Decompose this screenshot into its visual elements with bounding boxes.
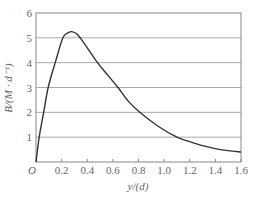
x-tick-label: 1.2 — [183, 164, 197, 176]
x-tick-label: 0.8 — [132, 164, 146, 176]
x-tick-label: 0.6 — [106, 164, 120, 176]
x-tick-label: 1.6 — [234, 164, 248, 176]
x-tick-label: 0.4 — [80, 164, 94, 176]
y-axis-label: B/(M · d⁻¹) — [2, 63, 15, 113]
y-tick-label: 4 — [27, 57, 33, 69]
x-axis-label: y/(d) — [127, 180, 149, 193]
y-tick-label: 3 — [27, 82, 33, 94]
x-tick-label: 0.2 — [55, 164, 69, 176]
y-tick-label: 6 — [27, 7, 33, 19]
y-tick-label: 2 — [27, 106, 33, 118]
x-tick-label: 1.4 — [209, 164, 223, 176]
y-tick-label: 1 — [27, 131, 33, 143]
gridlines — [36, 38, 241, 137]
x-tick-label: 1.0 — [157, 164, 171, 176]
y-axis-ticks: 123456 — [27, 7, 33, 143]
data-curve — [36, 32, 241, 162]
origin-label: O — [28, 164, 36, 176]
line-chart: 0.20.40.60.81.01.21.41.6 123456 O y/(d) … — [0, 0, 255, 203]
y-tick-label: 5 — [27, 32, 33, 44]
